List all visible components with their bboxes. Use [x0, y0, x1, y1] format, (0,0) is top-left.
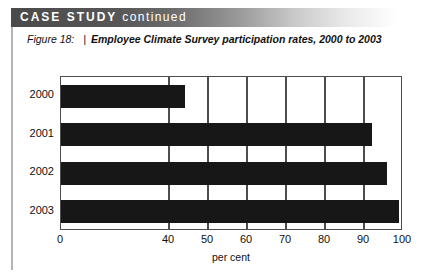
figure-caption: Figure 18:|Employee Climate Survey parti…	[27, 33, 382, 45]
x-label-100: 100	[393, 233, 411, 245]
x-label-70: 70	[279, 233, 291, 245]
figure-page: CASE STUDYcontinued Figure 18:|Employee …	[0, 0, 436, 273]
x-axis-labels: 0405060708090100	[0, 233, 436, 249]
banner-subtitle: continued	[122, 10, 187, 24]
bar-2000	[61, 85, 185, 108]
x-label-40: 40	[162, 233, 174, 245]
y-label-2003: 2003	[8, 204, 54, 216]
figure-number: Figure 18:	[27, 33, 74, 45]
bar-2002	[61, 162, 387, 185]
bar-2003	[61, 200, 399, 223]
banner-title: CASE STUDY	[20, 10, 117, 24]
caption-separator: |	[83, 33, 86, 45]
banner-text: CASE STUDYcontinued	[20, 10, 187, 25]
y-label-2001: 2001	[8, 127, 54, 139]
y-label-2002: 2002	[8, 165, 54, 177]
figure-title: Employee Climate Survey participation ra…	[91, 33, 382, 45]
case-study-banner: CASE STUDYcontinued	[11, 8, 426, 27]
x-axis-title: per cent	[60, 251, 402, 263]
chart-plot-area	[60, 76, 402, 230]
bar-2001	[61, 123, 372, 146]
y-axis-labels: 2000200120022003	[6, 76, 54, 230]
x-label-50: 50	[201, 233, 213, 245]
y-label-2000: 2000	[8, 88, 54, 100]
x-label-90: 90	[357, 233, 369, 245]
x-label-60: 60	[240, 233, 252, 245]
x-label-0: 0	[57, 233, 63, 245]
x-label-80: 80	[318, 233, 330, 245]
